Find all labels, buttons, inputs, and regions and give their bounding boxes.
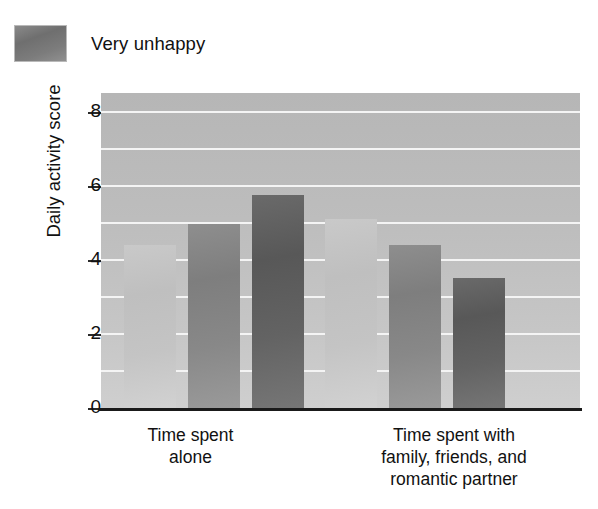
x-axis-label-line: Time spent xyxy=(98,424,283,446)
x-axis-label-line: romantic partner xyxy=(330,468,578,490)
y-tick-label: 2 xyxy=(23,322,101,344)
y-tick-label: 0 xyxy=(23,396,101,418)
y-axis: 02468 xyxy=(0,0,101,509)
x-axis-label-line: Time spent with xyxy=(330,424,578,446)
gridline xyxy=(101,148,580,150)
bar-1-2 xyxy=(188,224,240,409)
plot-area xyxy=(101,93,580,409)
bar-2-2 xyxy=(389,245,441,409)
y-tick-label: 6 xyxy=(23,174,101,196)
x-axis-baseline xyxy=(99,408,582,411)
x-axis-label-line: family, friends, and xyxy=(330,446,578,468)
bar-1-3 xyxy=(252,195,304,409)
legend-label-very-unhappy: Very unhappy xyxy=(91,33,205,55)
bar-2-3 xyxy=(453,278,505,409)
gridline xyxy=(101,111,580,113)
gridline xyxy=(101,185,580,187)
y-tick-label: 4 xyxy=(23,248,101,270)
bar-2-1 xyxy=(325,219,377,409)
x-axis-label-group-2: Time spent withfamily, friends, androman… xyxy=(330,424,578,490)
y-tick-label: 8 xyxy=(23,100,101,122)
x-axis-label-line: alone xyxy=(98,446,283,468)
x-axis-label-group-1: Time spentalone xyxy=(98,424,283,468)
bar-1-1 xyxy=(124,245,176,409)
